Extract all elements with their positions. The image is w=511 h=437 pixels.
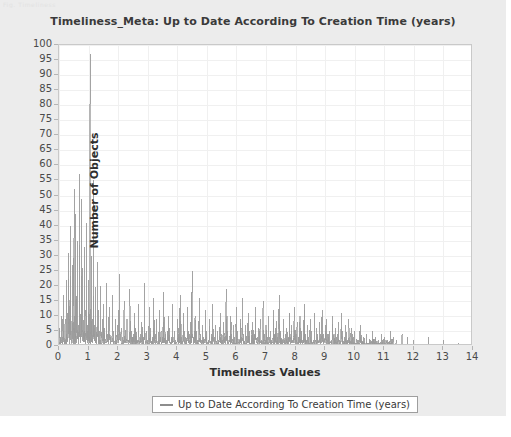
plot-area bbox=[58, 44, 472, 345]
y-axis-tick-mark bbox=[54, 315, 58, 316]
data-series-line bbox=[59, 45, 472, 345]
legend-swatch-icon bbox=[160, 404, 173, 406]
y-axis-tick-label: 5 bbox=[0, 325, 52, 335]
y-axis-tick-mark bbox=[54, 300, 58, 301]
x-axis-tick-label: 14 bbox=[457, 351, 487, 362]
y-axis-tick-label: 25 bbox=[0, 265, 52, 275]
y-axis-tick-label: 45 bbox=[0, 205, 52, 215]
x-axis-tick-label: 11 bbox=[368, 351, 398, 362]
chart-title: Timeliness_Meta: Up to Date According To… bbox=[0, 15, 506, 28]
y-axis-tick-label: 20 bbox=[0, 280, 52, 290]
x-axis-tick-mark bbox=[265, 346, 266, 350]
y-axis-tick-label: 75 bbox=[0, 114, 52, 124]
x-axis-tick-label: 6 bbox=[220, 351, 250, 362]
x-axis-tick-mark bbox=[117, 346, 118, 350]
x-axis-tick-label: 3 bbox=[132, 351, 162, 362]
x-axis-tick-label: 4 bbox=[161, 351, 191, 362]
y-axis-tick-label: 15 bbox=[0, 295, 52, 305]
y-axis-tick-mark bbox=[54, 104, 58, 105]
faint-header-text: Fig. Timeliness bbox=[3, 1, 73, 8]
y-axis-tick-label: 80 bbox=[0, 99, 52, 109]
x-axis-tick-label: 10 bbox=[339, 351, 369, 362]
x-axis-tick-mark bbox=[383, 346, 384, 350]
x-axis-tick-mark bbox=[354, 346, 355, 350]
y-axis-tick-mark bbox=[54, 89, 58, 90]
y-axis-tick-label: 10 bbox=[0, 310, 52, 320]
x-axis-tick-mark bbox=[235, 346, 236, 350]
x-axis-tick-label: 5 bbox=[191, 351, 221, 362]
x-axis-tick-mark bbox=[147, 346, 148, 350]
x-axis-tick-mark bbox=[324, 346, 325, 350]
x-axis-label: Timeliness Values bbox=[58, 366, 472, 379]
x-axis-tick-mark bbox=[58, 346, 59, 350]
y-axis-tick-label: 0 bbox=[0, 340, 52, 350]
x-axis-tick-label: 9 bbox=[309, 351, 339, 362]
x-axis-tick-mark bbox=[88, 346, 89, 350]
y-axis-tick-label: 95 bbox=[0, 54, 52, 64]
y-axis-tick-mark bbox=[54, 195, 58, 196]
y-axis-tick-label: 40 bbox=[0, 220, 52, 230]
y-axis-tick-mark bbox=[54, 270, 58, 271]
y-axis-tick-label: 60 bbox=[0, 159, 52, 169]
y-axis-tick-label: 55 bbox=[0, 174, 52, 184]
y-axis-tick-mark bbox=[54, 119, 58, 120]
y-axis-tick-mark bbox=[54, 59, 58, 60]
y-axis-tick-label: 65 bbox=[0, 144, 52, 154]
y-axis-tick-mark bbox=[54, 74, 58, 75]
y-axis-tick-mark bbox=[54, 255, 58, 256]
x-axis-tick-label: 12 bbox=[398, 351, 428, 362]
y-axis-tick-mark bbox=[54, 149, 58, 150]
y-axis-tick-mark bbox=[54, 134, 58, 135]
x-axis-tick-label: 2 bbox=[102, 351, 132, 362]
y-axis-tick-mark bbox=[54, 179, 58, 180]
x-axis-tick-mark bbox=[442, 346, 443, 350]
y-axis-tick-label: 35 bbox=[0, 235, 52, 245]
y-axis-tick-label: 100 bbox=[0, 39, 52, 49]
y-axis-tick-label: 85 bbox=[0, 84, 52, 94]
y-axis-tick-mark bbox=[54, 330, 58, 331]
y-axis-tick-mark bbox=[54, 285, 58, 286]
y-axis-tick-label: 90 bbox=[0, 69, 52, 79]
x-axis-tick-label: 1 bbox=[73, 351, 103, 362]
legend-label: Up to Date According To Creation Time (y… bbox=[178, 399, 410, 410]
x-axis-tick-label: 7 bbox=[250, 351, 280, 362]
y-axis-tick-mark bbox=[54, 225, 58, 226]
x-axis-tick-mark bbox=[206, 346, 207, 350]
x-axis-tick-mark bbox=[176, 346, 177, 350]
chart-legend: Up to Date According To Creation Time (y… bbox=[152, 396, 418, 413]
y-axis-tick-label: 30 bbox=[0, 250, 52, 260]
y-axis-tick-label: 50 bbox=[0, 190, 52, 200]
chart-panel: Fig. Timeliness Timeliness_Meta: Up to D… bbox=[0, 0, 506, 416]
x-axis-tick-label: 8 bbox=[280, 351, 310, 362]
y-axis-tick-label: 70 bbox=[0, 129, 52, 139]
x-axis-tick-label: 0 bbox=[43, 351, 73, 362]
x-axis-tick-mark bbox=[413, 346, 414, 350]
x-axis-tick-mark bbox=[472, 346, 473, 350]
series-path bbox=[59, 54, 472, 345]
y-axis-tick-mark bbox=[54, 164, 58, 165]
x-axis-tick-mark bbox=[295, 346, 296, 350]
y-axis-tick-mark bbox=[54, 210, 58, 211]
y-axis-tick-mark bbox=[54, 240, 58, 241]
y-axis-tick-mark bbox=[54, 44, 58, 45]
x-axis-tick-label: 13 bbox=[427, 351, 457, 362]
